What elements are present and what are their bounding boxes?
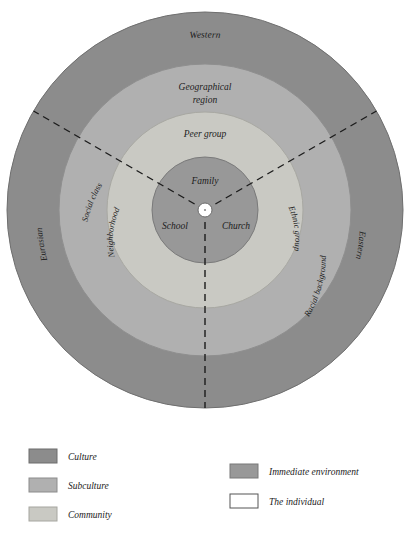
socialization-circles-diagram: Western Eurasian Eastern Geographical re…: [0, 0, 409, 539]
legend-swatch-the-individual: [230, 494, 258, 508]
diagram-canvas: Western Eurasian Eastern Geographical re…: [0, 0, 409, 539]
legend-item-community: Community: [29, 507, 113, 521]
label-region: region: [193, 95, 218, 105]
label-geographical: Geographical: [179, 82, 232, 92]
legend-label-the-individual: The individual: [269, 497, 325, 507]
legend-swatch-community: [29, 507, 57, 521]
legend-label-culture: Culture: [68, 452, 97, 462]
legend-swatch-immediate-environment: [230, 464, 258, 478]
label-family: Family: [191, 176, 220, 186]
legend-swatch-culture: [29, 449, 57, 463]
legend-swatch-subculture: [29, 478, 57, 492]
legend-label-immediate-environment: Immediate environment: [268, 467, 359, 477]
legend-label-subculture: Subculture: [68, 481, 109, 491]
legend-item-immediate-environment: Immediate environment: [230, 464, 359, 478]
legend-item-the-individual: The individual: [230, 494, 325, 508]
legend-item-culture: Culture: [29, 449, 97, 463]
label-western: Western: [189, 30, 221, 41]
legend-item-subculture: Subculture: [29, 478, 109, 492]
center-dot: [204, 209, 206, 211]
label-school: School: [162, 221, 188, 231]
label-peer-group: Peer group: [183, 129, 227, 139]
label-church: Church: [222, 221, 250, 231]
legend: Culture Subculture Community Immediate e…: [29, 449, 359, 521]
legend-label-community: Community: [68, 510, 113, 520]
